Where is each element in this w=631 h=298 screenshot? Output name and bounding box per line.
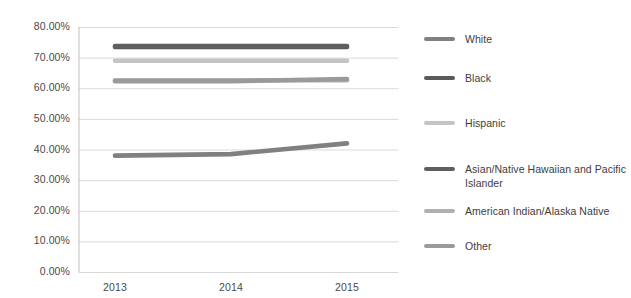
x-axis-tick-label: 2015 [317,281,377,293]
chart-legend: WhiteBlackHispanicAsian/Native Hawaiian … [424,26,631,266]
legend-swatch-icon [424,121,455,125]
legend-item[interactable]: White [424,32,631,46]
y-axis-tick-label: 0.00% [4,265,70,277]
legend-item[interactable]: Asian/Native Hawaiian and Pacific Island… [424,162,631,190]
y-axis-tick-label: 70.00% [4,51,70,63]
legend-item-label: American Indian/Alaska Native [465,204,609,218]
legend-item-label: Other [465,239,492,253]
legend-item[interactable]: American Indian/Alaska Native [424,204,631,218]
y-axis-tick-label: 60.00% [4,81,70,93]
legend-swatch-icon [424,167,455,171]
legend-swatch-icon [424,37,455,41]
y-axis-tick-label: 40.00% [4,143,70,155]
legend-item-label: White [465,32,492,46]
legend-swatch-icon [424,244,455,248]
line-chart: 80.00%70.00%60.00%50.00%40.00%30.00%20.0… [0,0,631,298]
legend-item[interactable]: Other [424,239,631,253]
x-axis-tick-label: 2014 [201,281,261,293]
y-axis-tick-label: 80.00% [4,20,70,32]
y-axis-tick-label: 10.00% [4,234,70,246]
series-line [115,79,347,81]
y-axis-tick-label: 30.00% [4,173,70,185]
legend-item-label: Black [465,71,491,85]
legend-item[interactable]: Hispanic [424,116,631,130]
legend-item-label: Asian/Native Hawaiian and Pacific Island… [465,162,631,190]
y-axis-tick-label: 20.00% [4,204,70,216]
legend-item[interactable]: Black [424,71,631,85]
gridlines [79,28,399,273]
y-axis-tick-label: 50.00% [4,112,70,124]
series-lines [115,46,347,156]
legend-item-label: Hispanic [465,116,506,130]
legend-swatch-icon [424,209,455,213]
legend-swatch-icon [424,76,455,80]
x-axis-tick-label: 2013 [85,281,145,293]
